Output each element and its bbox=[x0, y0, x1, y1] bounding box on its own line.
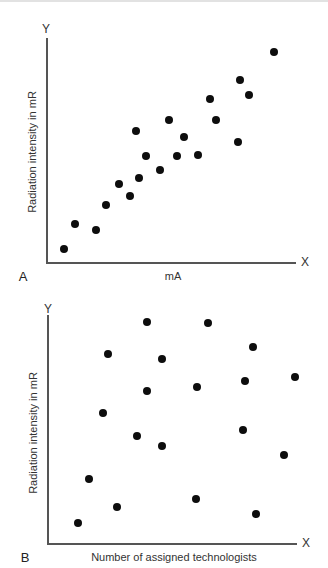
data-point bbox=[71, 220, 79, 228]
panel-label: A bbox=[19, 270, 28, 283]
data-point bbox=[60, 245, 68, 253]
data-point bbox=[85, 475, 93, 483]
data-point bbox=[92, 226, 100, 234]
data-point bbox=[193, 383, 201, 391]
data-point bbox=[104, 350, 112, 358]
chart-panel-b: Y X Radiation intensity in mR Number of … bbox=[0, 284, 328, 568]
data-point bbox=[241, 377, 249, 385]
panel-label: B bbox=[21, 551, 30, 564]
data-point bbox=[245, 91, 253, 99]
y-axis-letter: Y bbox=[42, 23, 50, 35]
data-point bbox=[234, 138, 242, 146]
data-point bbox=[126, 192, 134, 200]
x-axis-line bbox=[46, 262, 296, 264]
data-point bbox=[291, 373, 299, 381]
data-point bbox=[158, 355, 166, 363]
x-axis-letter: X bbox=[302, 537, 310, 549]
data-point bbox=[99, 409, 107, 417]
data-point bbox=[165, 116, 173, 124]
y-axis-letter: Y bbox=[44, 303, 52, 315]
data-point bbox=[142, 152, 150, 160]
data-point bbox=[206, 95, 214, 103]
x-axis-label: Number of assigned technologists bbox=[91, 552, 257, 563]
data-point bbox=[239, 426, 247, 434]
data-point bbox=[249, 343, 257, 351]
data-point bbox=[252, 510, 260, 518]
data-point bbox=[74, 519, 82, 527]
y-axis-label: Radiation intensity in mR bbox=[27, 91, 38, 213]
data-point bbox=[115, 180, 123, 188]
data-point bbox=[173, 152, 181, 160]
x-axis-label: mA bbox=[165, 271, 182, 282]
data-point bbox=[156, 166, 164, 174]
scatter-plot-area bbox=[47, 38, 296, 262]
data-point bbox=[204, 319, 212, 327]
data-point bbox=[133, 432, 141, 440]
chart-panel-a: Y X Radiation intensity in mR mA A bbox=[0, 0, 328, 284]
y-axis-label: Radiation intensity in mR bbox=[28, 372, 39, 494]
data-point bbox=[102, 201, 110, 209]
data-point bbox=[194, 151, 202, 159]
data-point bbox=[212, 116, 220, 124]
scatter-plot-area bbox=[48, 315, 297, 544]
data-point bbox=[113, 503, 121, 511]
data-point bbox=[270, 48, 278, 56]
data-point bbox=[192, 495, 200, 503]
data-point bbox=[143, 318, 151, 326]
data-point bbox=[236, 76, 244, 84]
data-point bbox=[280, 451, 288, 459]
data-point bbox=[132, 127, 140, 135]
data-point bbox=[135, 174, 143, 182]
data-point bbox=[158, 442, 166, 450]
data-point bbox=[180, 133, 188, 141]
x-axis-letter: X bbox=[301, 256, 309, 268]
data-point bbox=[143, 387, 151, 395]
